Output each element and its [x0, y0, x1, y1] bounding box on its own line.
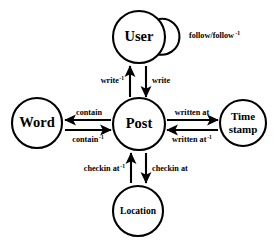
node-timestamp-label-line2: stamp — [229, 123, 258, 135]
diagram-canvas: write-1 write contain contain-1 written … — [0, 0, 274, 243]
edge-write: write — [146, 66, 171, 97]
edge-write-inverse: write-1 — [101, 66, 130, 97]
node-post[interactable]: Post — [113, 98, 165, 150]
edge-write-inverse-label: write-1 — [101, 75, 125, 85]
edge-contain: contain — [65, 108, 111, 120]
edge-write-label: write — [152, 76, 171, 85]
edge-written-at-inverse-label: written at-1 — [172, 134, 212, 144]
network-schema-diagram: write-1 write contain contain-1 written … — [0, 0, 274, 243]
node-user[interactable]: User — [113, 11, 165, 63]
node-post-label: Post — [126, 115, 153, 131]
node-location[interactable]: Location — [113, 186, 163, 236]
edge-checkin-at: checkin at — [146, 153, 188, 183]
edge-checkin-at-inverse: checkin at-1 — [84, 153, 131, 183]
edge-checkin-at-inverse-label: checkin at-1 — [84, 163, 125, 173]
node-word-label: Word — [19, 114, 54, 130]
node-timestamp[interactable]: Time stamp — [220, 100, 266, 146]
edge-contain-label: contain — [76, 108, 102, 117]
node-word[interactable]: Word — [12, 98, 62, 148]
node-user-label: User — [125, 28, 155, 44]
edge-written-at-inverse: written at-1 — [167, 130, 218, 144]
edge-follow-label: follow/follow-1 — [189, 30, 240, 40]
edge-contain-inverse: contain-1 — [65, 130, 111, 144]
node-timestamp-label-line1: Time — [231, 110, 255, 122]
edge-checkin-at-label: checkin at — [152, 164, 188, 173]
edge-written-at: written at — [167, 108, 218, 120]
node-location-label: Location — [120, 206, 157, 216]
edge-contain-inverse-label: contain-1 — [72, 134, 104, 144]
edge-written-at-label: written at — [175, 108, 210, 117]
